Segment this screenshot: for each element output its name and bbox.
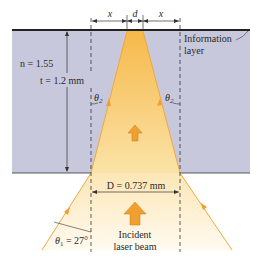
dim-arrow [174,19,179,23]
diagram: x d x n = 1.55 t = 1.2 mm θ2 θ2 Informat… [0,0,258,262]
D-label: D = 0.737 mm [107,180,166,191]
x-left-label: x [107,8,113,19]
incident-label-line2: laser beam [113,241,156,252]
dim-arrow [92,19,97,23]
info-layer-label-line1: Information [184,33,232,44]
dim-arrow [127,19,132,23]
dim-arrow [122,19,127,23]
info-layer-label-line2: layer [184,45,205,56]
x-right-label: x [158,8,164,19]
dim-arrow [138,19,143,23]
thickness-label: t = 1.2 mm [40,75,84,86]
incident-label-line1: Incident [119,229,152,240]
dim-arrow [143,19,148,23]
d-label: d [133,8,139,19]
refractive-index-label: n = 1.55 [20,58,53,69]
